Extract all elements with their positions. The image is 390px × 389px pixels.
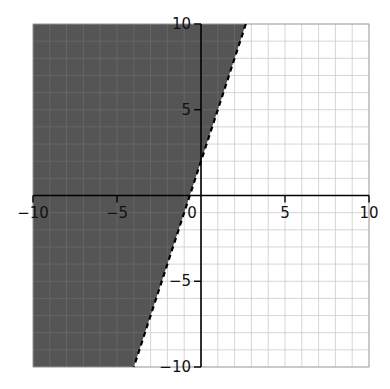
- x-tick-label: 5: [280, 204, 290, 222]
- y-tick-label: −10: [159, 358, 191, 376]
- y-tick-label: 10: [172, 15, 191, 33]
- x-tick-label: −10: [17, 204, 49, 222]
- x-tick-label: −5: [106, 204, 128, 222]
- y-tick-label: −5: [169, 272, 191, 290]
- x-tick-label: 10: [359, 204, 378, 222]
- y-tick-label: 5: [181, 101, 191, 119]
- inequality-chart: −10−50510−10−5510: [0, 0, 390, 389]
- x-tick-label: 0: [187, 204, 197, 222]
